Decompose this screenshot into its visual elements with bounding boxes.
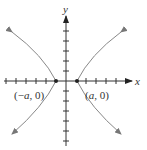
vertex-left-label: (−a, 0) (14, 89, 44, 102)
x-axis (4, 78, 132, 84)
vertex-right-point (75, 79, 79, 83)
hyperbola-diagram: x y (−a, 0) (a, 0) (0, 0, 147, 150)
x-axis-label: x (134, 75, 140, 87)
hyperbola-right-branch (77, 32, 121, 81)
vertex-right-label: (a, 0) (85, 89, 109, 102)
vertex-left-point (54, 79, 58, 83)
hyperbola-left-branch (12, 32, 56, 81)
y-axis-label: y (62, 3, 68, 15)
